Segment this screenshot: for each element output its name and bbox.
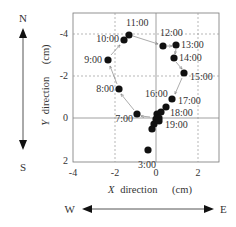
svg-text:17:00: 17:00 [178,95,201,106]
west-east-arrow: W E [65,203,227,215]
south-label: S [20,161,26,173]
svg-text:-4: -4 [69,167,77,178]
point-14-00 [170,54,177,61]
point-11-00 [125,31,132,38]
svg-text:14:00: 14:00 [179,52,202,63]
svg-text:2: 2 [196,167,201,178]
svg-text:-4: -4 [60,28,68,39]
north-label: N [19,12,27,24]
svg-text:-2: -2 [60,70,68,81]
svg-text:10:00: 10:00 [96,33,119,44]
y-axis-label: Y direction (cm) [40,44,52,126]
svg-text:13:00: 13:00 [181,39,204,50]
svg-text:19:00: 19:00 [165,119,188,130]
trajectory-chart: N S Y direction (cm) -4 -2 0 2 -4 -2 0 2… [0,0,236,227]
svg-text:-2: -2 [111,167,119,178]
point-3-00 [144,146,151,153]
y-ticks: -4 -2 0 2 [60,28,68,166]
svg-text:11:00: 11:00 [126,17,148,28]
point-19-00 [155,117,162,124]
east-label: E [220,203,227,215]
point-8-00 [115,85,122,92]
point-9-00 [104,56,111,63]
svg-text:9:00: 9:00 [84,54,102,65]
svg-text:3:00: 3:00 [138,159,156,170]
point-7-00 [133,110,140,117]
svg-text:2: 2 [63,155,68,166]
svg-text:7:00: 7:00 [115,113,133,124]
svg-text:Y direction (cm): Y direction (cm) [40,44,52,126]
north-south-arrow: N S [19,12,27,173]
svg-text:8:00: 8:00 [96,83,114,94]
svg-text:16:00: 16:00 [145,88,168,99]
point-15-00 [180,69,187,76]
x-axis-label: X direction (cm) [107,184,192,196]
point-17-00 [168,95,175,102]
svg-text:12:00: 12:00 [160,27,183,38]
point [162,103,169,110]
svg-text:0: 0 [63,112,68,123]
point-13-00 [172,41,179,48]
west-label: W [65,203,76,215]
x-ticks: -4 -2 0 2 [69,167,201,178]
svg-text:18:00: 18:00 [170,107,193,118]
svg-text:15:00: 15:00 [190,71,213,82]
point-12-00 [159,42,166,49]
